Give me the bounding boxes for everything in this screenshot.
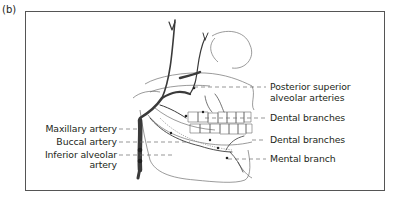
arteries	[138, 20, 244, 178]
label-maxillary-artery: Maxillary artery	[45, 124, 117, 134]
label-buccal-artery: Buccal artery	[56, 137, 117, 147]
label-posterior-superior-alveolar-line2: alveolar arteries	[270, 93, 344, 103]
upper-teeth	[188, 112, 251, 123]
label-dental-branches-upper: Dental branches	[270, 113, 345, 123]
label-inferior-alveolar-artery-line2: artery	[89, 160, 117, 170]
label-mental-branch: Mental branch	[270, 154, 336, 164]
label-dental-branches-lower: Dental branches	[270, 135, 345, 145]
lower-teeth	[190, 124, 252, 134]
label-posterior-superior-alveolar-line1: Posterior superior	[270, 82, 351, 92]
artery-dots	[138, 87, 229, 164]
